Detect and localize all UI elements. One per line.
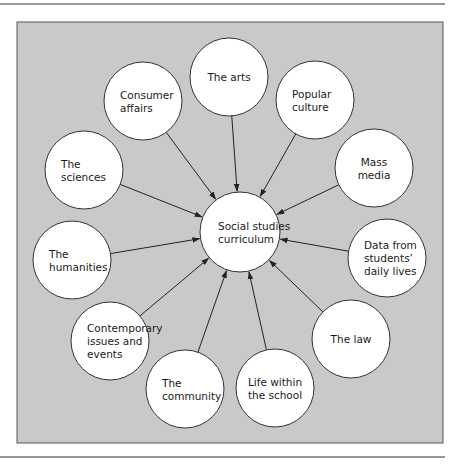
node-popular-culture: Popularculture [276, 61, 354, 139]
node-label-line: The arts [206, 71, 250, 83]
node-label-line: Popular [292, 88, 332, 100]
node-label-line: Mass [361, 156, 387, 168]
node-consumer-affairs: Consumeraffairs [104, 62, 182, 140]
node-label-line: The [48, 248, 69, 260]
node-label-line: humanities [49, 261, 108, 273]
node-label-line: the school [248, 389, 302, 401]
node-label-line: issues and [87, 335, 143, 347]
concept-diagram: The artsConsumeraffairsPopularcultureThe… [0, 0, 459, 466]
node-label-line: Contemporary [87, 322, 163, 334]
node-data-from-students-daily-lives: Data fromstudents’daily lives [348, 219, 426, 297]
node-label-line: The law [330, 333, 372, 345]
node-mass-media: Massmedia [335, 129, 413, 207]
node-label-line: culture [292, 101, 329, 113]
node-the-law: The law [312, 300, 390, 378]
node-label-line: The [60, 158, 81, 170]
node-the-arts: The arts [190, 38, 268, 116]
node-label-line: media [358, 169, 391, 181]
node-label-line: events [87, 348, 122, 360]
node-label-line: daily lives [364, 265, 416, 277]
node-the-community: Thecommunity [146, 350, 224, 428]
node-label-line: The [161, 377, 182, 389]
node-label-line: curriculum [218, 233, 274, 245]
node-label-line: Data from [364, 239, 417, 251]
node-label-line: sciences [61, 171, 106, 183]
node-life-within-the-school: Life withinthe school [236, 349, 314, 427]
node-label-line: affairs [120, 102, 153, 114]
node-the-sciences: Thesciences [45, 131, 123, 209]
node-the-humanities: Thehumanities [33, 221, 111, 299]
node-label-line: students’ [364, 252, 413, 264]
node-label-line: Social studies [218, 220, 290, 232]
node-label-line: community [162, 390, 221, 402]
node-label-line: Life within [248, 376, 302, 388]
node-label-line: Consumer [120, 89, 174, 101]
